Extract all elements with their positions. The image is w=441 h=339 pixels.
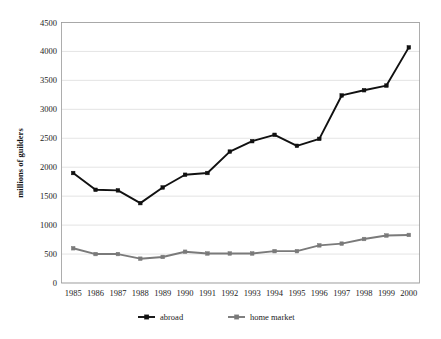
data-point-marker bbox=[116, 252, 120, 256]
y-tick-label: 4500 bbox=[40, 18, 57, 28]
data-point-marker bbox=[183, 250, 187, 254]
legend: abroadhome market bbox=[138, 312, 295, 322]
x-tick-label: 1990 bbox=[177, 288, 194, 298]
data-point-marker bbox=[250, 252, 254, 256]
x-tick-label: 1988 bbox=[132, 288, 149, 298]
data-point-marker bbox=[295, 249, 299, 253]
x-tick-label: 1996 bbox=[311, 288, 328, 298]
data-point-marker bbox=[340, 242, 344, 246]
x-tick-label: 1989 bbox=[154, 288, 171, 298]
legend-label: home market bbox=[250, 312, 295, 322]
data-point-marker bbox=[139, 201, 143, 205]
data-point-marker bbox=[116, 189, 120, 193]
data-point-marker bbox=[250, 139, 254, 143]
x-tick-label: 1993 bbox=[244, 288, 261, 298]
legend-item-home-market[interactable]: home market bbox=[228, 312, 295, 322]
y-tick-label: 2000 bbox=[40, 162, 57, 172]
series-home-market bbox=[71, 233, 410, 260]
data-point-marker bbox=[71, 246, 75, 250]
x-axis-tick-labels: 1985198619871988198919901991199219931994… bbox=[65, 288, 418, 298]
data-point-marker bbox=[139, 257, 143, 261]
legend-label: abroad bbox=[160, 312, 184, 322]
x-tick-label: 1987 bbox=[109, 288, 126, 298]
series-line bbox=[73, 235, 409, 259]
series-line bbox=[73, 47, 409, 203]
data-point-marker bbox=[385, 84, 389, 88]
data-point-marker bbox=[385, 234, 389, 238]
legend-marker bbox=[235, 315, 239, 319]
chart-container: 050010001500200025003000350040004500 198… bbox=[0, 0, 441, 339]
data-point-marker bbox=[94, 188, 98, 192]
data-point-marker bbox=[228, 252, 232, 256]
data-point-marker bbox=[273, 133, 277, 137]
y-tick-label: 3500 bbox=[40, 75, 57, 85]
data-point-marker bbox=[362, 88, 366, 92]
data-point-marker bbox=[183, 173, 187, 177]
data-point-marker bbox=[273, 249, 277, 253]
series-group bbox=[71, 46, 410, 261]
data-point-marker bbox=[295, 144, 299, 148]
plot-area-frame bbox=[62, 23, 420, 284]
data-point-marker bbox=[340, 94, 344, 98]
data-point-marker bbox=[407, 46, 411, 50]
x-tick-label: 1992 bbox=[221, 288, 238, 298]
x-tick-label: 1995 bbox=[288, 288, 305, 298]
x-tick-label: 1998 bbox=[356, 288, 373, 298]
series-abroad bbox=[71, 46, 410, 205]
y-tick-label: 0 bbox=[53, 278, 57, 288]
y-tick-label: 1500 bbox=[40, 191, 57, 201]
data-point-marker bbox=[318, 137, 322, 141]
data-point-marker bbox=[228, 150, 232, 154]
x-tick-label: 1999 bbox=[378, 288, 395, 298]
gridlines-group bbox=[62, 23, 420, 284]
legend-item-abroad[interactable]: abroad bbox=[138, 312, 184, 322]
y-axis-title: millions of guilders bbox=[15, 128, 25, 198]
y-tick-label: 1000 bbox=[40, 220, 57, 230]
data-point-marker bbox=[206, 252, 210, 256]
data-point-marker bbox=[71, 171, 75, 175]
data-point-marker bbox=[206, 171, 210, 175]
y-axis-tick-labels: 050010001500200025003000350040004500 bbox=[40, 18, 57, 289]
x-tick-label: 1986 bbox=[87, 288, 104, 298]
y-tick-label: 2500 bbox=[40, 133, 57, 143]
legend-marker bbox=[145, 315, 149, 319]
x-tick-label: 1994 bbox=[266, 288, 284, 298]
y-tick-label: 3000 bbox=[40, 104, 57, 114]
x-tick-label: 1985 bbox=[65, 288, 82, 298]
data-point-marker bbox=[161, 255, 165, 259]
x-tick-label: 1991 bbox=[199, 288, 216, 298]
line-chart: 050010001500200025003000350040004500 198… bbox=[0, 0, 441, 339]
y-tick-label: 4000 bbox=[40, 46, 57, 56]
y-tick-label: 500 bbox=[44, 249, 57, 259]
data-point-marker bbox=[407, 233, 411, 237]
x-tick-label: 1997 bbox=[333, 288, 350, 298]
x-tick-label: 2000 bbox=[400, 288, 417, 298]
data-point-marker bbox=[362, 237, 366, 241]
data-point-marker bbox=[161, 186, 165, 190]
data-point-marker bbox=[318, 244, 322, 248]
data-point-marker bbox=[94, 252, 98, 256]
